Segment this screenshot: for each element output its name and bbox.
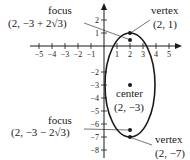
vertex-bottom-label: vertex <box>155 133 183 145</box>
y-tick-labels: 21−2−3−4−5−6−7−8 <box>90 16 99 155</box>
x-axis <box>30 43 182 49</box>
y-tick-label: −8 <box>90 146 99 155</box>
x-tick-label: 5 <box>167 50 171 59</box>
ellipse-diagram: −5−4−3−2−112345 21−2−3−4−5−6−7−8 focus (… <box>0 0 190 160</box>
y-tick-label: −2 <box>90 68 99 77</box>
focus-bottom-label: focus <box>48 114 72 126</box>
y-tick-label: −3 <box>90 81 99 90</box>
x-axis-arrow-icon <box>175 43 182 49</box>
x-tick-label: 4 <box>154 50 158 59</box>
x-tick-label: −5 <box>35 50 44 59</box>
focus-top-point <box>128 38 132 42</box>
vertex-top-coords: (2, 1) <box>153 18 177 31</box>
x-tick-label: −1 <box>87 50 96 59</box>
x-tick-label: −4 <box>48 50 57 59</box>
y-tick-label: −4 <box>90 94 99 103</box>
y-axis-arrow-icon <box>101 3 107 10</box>
y-axis <box>101 3 107 158</box>
vertex-top-label: vertex <box>151 4 179 16</box>
center-label: center <box>116 87 143 99</box>
y-tick-label: 2 <box>95 16 99 25</box>
y-tick-label: −7 <box>90 133 99 142</box>
focus-top-coords: (2, −3 + 2√3) <box>8 17 67 30</box>
y-tick-label: −6 <box>90 120 99 129</box>
x-tick-label: 1 <box>115 50 119 59</box>
vertex-bottom-point <box>128 135 132 139</box>
x-tick-label: −3 <box>61 50 70 59</box>
vertex-top-point <box>128 31 132 35</box>
focus-bottom-coords: (2, −3 − 2√3) <box>11 126 70 139</box>
y-tick-label: 1 <box>95 29 99 38</box>
x-tick-label: −2 <box>74 50 83 59</box>
vertex-bottom-coords: (2, −7) <box>155 147 185 160</box>
focus-top-label: focus <box>48 4 72 16</box>
center-coords: (2, −3) <box>114 101 144 114</box>
x-tick-label: 2 <box>128 50 132 59</box>
x-tick-label: 3 <box>141 50 145 59</box>
focus-bottom-point <box>128 128 132 132</box>
y-tick-label: −5 <box>90 107 99 116</box>
